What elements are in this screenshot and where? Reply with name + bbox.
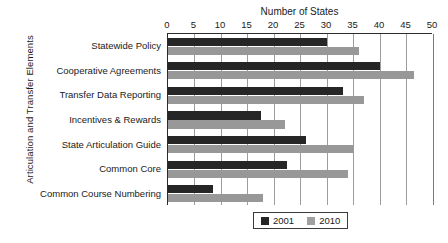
bar-2010 xyxy=(168,71,414,79)
x-tick-label: 45 xyxy=(400,19,411,30)
category-label: Common Course Numbering xyxy=(40,187,161,198)
x-tick-label: 20 xyxy=(268,19,279,30)
bar-2010 xyxy=(168,194,263,202)
legend-label: 2010 xyxy=(319,215,340,226)
legend-item[interactable]: 2001 xyxy=(261,215,294,226)
legend-swatch-icon xyxy=(261,217,269,225)
bar-group xyxy=(168,157,432,182)
bar-2010 xyxy=(168,120,285,128)
bar-group xyxy=(168,83,432,108)
x-tick-label: 50 xyxy=(427,19,438,30)
bar-2010 xyxy=(168,96,364,104)
category-label: Common Core xyxy=(99,163,161,174)
bar-2001 xyxy=(168,38,327,46)
legend-swatch-icon xyxy=(307,217,315,225)
bar-group xyxy=(168,34,432,59)
x-tick-label: 0 xyxy=(164,19,169,30)
y-axis-category-labels: Statewide PolicyCooperative AgreementsTr… xyxy=(0,33,164,205)
bar-group xyxy=(168,108,432,133)
bar-2010 xyxy=(168,170,348,178)
legend-item[interactable]: 2010 xyxy=(307,215,340,226)
x-axis-tick-labels: 05101520253035404550 xyxy=(167,19,432,32)
bar-2001 xyxy=(168,87,343,95)
category-label: State Articulation Guide xyxy=(62,138,161,149)
bar-2010 xyxy=(168,47,359,55)
category-label: Transfer Data Reporting xyxy=(59,89,161,100)
bar-2001 xyxy=(168,62,380,70)
x-tick-label: 5 xyxy=(191,19,196,30)
bar-2001 xyxy=(168,111,261,119)
x-tick-label: 40 xyxy=(374,19,385,30)
x-tick-label: 10 xyxy=(215,19,226,30)
bar-group xyxy=(168,132,432,157)
x-tick-label: 30 xyxy=(321,19,332,30)
x-tick-label: 25 xyxy=(294,19,305,30)
bar-2001 xyxy=(168,136,306,144)
bar-2001 xyxy=(168,161,287,169)
legend-label: 2001 xyxy=(273,215,294,226)
bar-rows xyxy=(168,34,432,205)
bar-2001 xyxy=(168,185,213,193)
gridline xyxy=(433,34,434,205)
category-label: Statewide Policy xyxy=(91,40,161,51)
bar-group xyxy=(168,59,432,84)
plot-area xyxy=(167,33,432,205)
x-tick-label: 35 xyxy=(347,19,358,30)
bar-chart: Articulation and Transfer Elements Numbe… xyxy=(0,0,448,243)
bar-group xyxy=(168,181,432,206)
category-label: Cooperative Agreements xyxy=(56,64,161,75)
category-label: Incentives & Rewards xyxy=(69,114,161,125)
legend: 20012010 xyxy=(253,212,348,229)
x-axis-title: Number of States xyxy=(167,6,432,17)
bar-2010 xyxy=(168,145,354,153)
x-tick-label: 15 xyxy=(241,19,252,30)
